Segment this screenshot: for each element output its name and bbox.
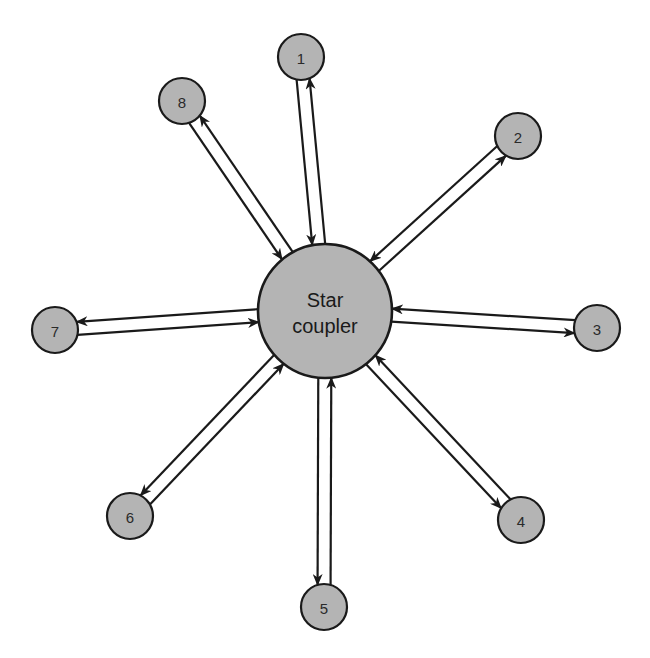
link-node-8-to-hub [189,123,282,260]
link-node-7-to-hub [77,322,258,335]
node-label: 8 [178,94,186,111]
node-label: 7 [51,323,59,340]
node-6: 6 [107,493,153,539]
node-label: 5 [320,600,328,617]
node-5: 5 [301,584,347,630]
link-node-3-from-hub [391,322,574,333]
star-coupler-hub: Star coupler [258,244,392,378]
link-node-6-from-hub [140,355,274,496]
hub-label-line1: Star [307,289,344,311]
node-label: 2 [514,129,522,146]
node-label: 6 [126,509,134,526]
star-coupler-diagram: Star coupler 12345678 [0,0,650,658]
link-node-4-from-hub [366,364,501,508]
link-node-5-to-hub [331,378,332,585]
link-node-3-to-hub [392,309,575,320]
hub-label-line2: coupler [292,315,358,337]
node-8: 8 [159,78,205,124]
link-node-2-from-hub [379,156,506,271]
node-7: 7 [32,307,78,353]
link-node-8-from-hub [200,116,293,253]
link-node-2-to-hub [370,146,497,261]
link-node-7-from-hub [77,309,258,322]
link-node-1-to-hub [297,80,313,246]
node-3: 3 [574,305,620,351]
node-label: 3 [593,321,601,338]
link-node-4-to-hub [375,355,510,499]
node-label: 1 [297,50,305,67]
node-label: 4 [517,513,525,530]
link-node-6-to-hub [150,364,284,505]
node-1: 1 [278,34,324,80]
node-2: 2 [495,113,541,159]
link-node-1-from-hub [310,78,326,244]
node-4: 4 [498,497,544,543]
link-node-5-from-hub [318,378,319,585]
hub-circle [258,244,392,378]
